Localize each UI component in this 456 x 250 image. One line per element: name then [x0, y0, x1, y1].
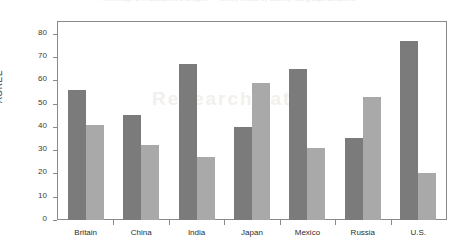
header-text-strip: Percentage of respondents who agree — su… — [0, 0, 456, 7]
y-axis-tick-label: 80 — [38, 28, 47, 38]
y-axis-tick-label: 70 — [38, 51, 47, 61]
bar-group — [179, 22, 215, 220]
bar — [400, 41, 418, 220]
bar — [307, 148, 325, 220]
y-axis-tick-label: 30 — [38, 144, 47, 154]
bar — [197, 157, 215, 220]
bars-area — [58, 22, 446, 220]
bar — [289, 69, 307, 220]
bar — [252, 83, 270, 220]
y-axis-tick-label: 60 — [38, 74, 47, 84]
bar — [141, 145, 159, 220]
bar — [345, 138, 363, 220]
header-note-text: Percentage of respondents who agree — su… — [101, 0, 356, 2]
x-axis-tick — [113, 220, 114, 225]
y-axis-tick-label: 0 — [43, 214, 47, 224]
x-axis-tick — [391, 220, 392, 225]
bar-group — [400, 22, 436, 220]
bar — [123, 115, 141, 220]
bar — [234, 127, 252, 220]
bar — [179, 64, 197, 220]
y-axis-label: AGREE — [0, 70, 4, 103]
bar-group — [123, 22, 159, 220]
x-axis-label-us: U.S. — [383, 227, 453, 238]
y-axis-tick-mark — [53, 220, 57, 221]
bar-chart: AGREE 01020304050607080 BritainChinaIndi… — [0, 7, 456, 250]
x-axis-tick — [335, 220, 336, 225]
bar — [363, 97, 381, 220]
bar — [418, 173, 436, 220]
y-axis-tick-label: 20 — [38, 167, 47, 177]
x-axis-tick — [224, 220, 225, 225]
y-axis-tick-label: 50 — [38, 98, 47, 108]
y-axis-tick-label: 40 — [38, 121, 47, 131]
x-axis-tick — [280, 220, 281, 225]
x-axis-tick — [169, 220, 170, 225]
bar-group — [234, 22, 270, 220]
y-axis-tick-label: 10 — [38, 191, 47, 201]
bar-group — [68, 22, 104, 220]
bar-group — [289, 22, 325, 220]
bar-group — [345, 22, 381, 220]
bar — [68, 90, 86, 220]
bar — [86, 125, 104, 221]
